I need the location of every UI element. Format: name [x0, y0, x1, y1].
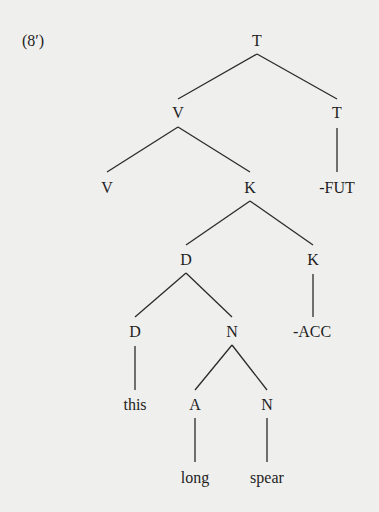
edge-t-v — [178, 54, 257, 99]
node-d-head: D — [129, 324, 141, 340]
edge-d-n — [186, 273, 232, 317]
node-n-head: N — [261, 397, 273, 413]
word-long: long — [181, 470, 209, 486]
edge-n-n — [232, 345, 267, 390]
edge-k-d — [186, 201, 250, 245]
node-k: K — [244, 180, 256, 196]
edge-k-k — [250, 201, 313, 245]
node-v: V — [172, 105, 184, 121]
node-t-root: T — [252, 33, 262, 49]
word-this: this — [123, 397, 146, 413]
node-n: N — [226, 324, 238, 340]
node-d: D — [180, 252, 192, 268]
node-acc: -ACC — [293, 324, 331, 340]
edge-v-k — [178, 127, 250, 172]
node-v-head: V — [101, 180, 113, 196]
edge-v-v — [107, 127, 178, 172]
node-a: A — [189, 397, 201, 413]
word-spear: spear — [250, 470, 284, 486]
edge-n-a — [195, 345, 232, 390]
node-fut: -FUT — [319, 180, 355, 196]
node-t: T — [332, 105, 342, 121]
edge-d-d — [135, 273, 186, 317]
node-k-head: K — [307, 252, 319, 268]
edge-t-t — [257, 54, 337, 99]
